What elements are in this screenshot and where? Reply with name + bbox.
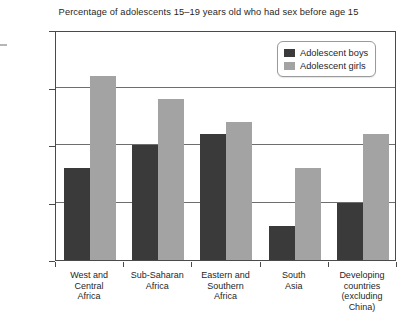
legend-label: Adolescent girls [300, 61, 366, 71]
bar-boys [132, 145, 158, 260]
x-axis-category-label-line: Africa [191, 291, 259, 302]
bar-boys [337, 203, 363, 261]
legend-item: Adolescent boys [284, 46, 368, 59]
x-axis-category-label-line: Africa [123, 281, 191, 292]
x-axis-category-label: SouthAsia [260, 270, 328, 291]
bar-girls [363, 134, 389, 261]
x-axis-category-label-line: (excluding [328, 291, 396, 302]
x-axis-category-label-line: China) [328, 302, 396, 313]
bar-boys [269, 226, 295, 261]
x-axis-tick-mark [260, 262, 261, 267]
x-axis-category-label-line: Sub-Saharan [123, 270, 191, 281]
x-axis-category-label-line: West and [55, 270, 123, 281]
x-axis-tick-mark [123, 262, 124, 267]
x-axis-tick-mark [328, 262, 329, 267]
x-axis-category-label-line: Africa [55, 291, 123, 302]
bar-girls [90, 76, 116, 260]
bar-girls [226, 122, 252, 260]
x-axis-category-label-line: Asia [260, 281, 328, 292]
x-axis-tick-mark [191, 262, 192, 267]
x-axis-category-label: West andCentralAfrica [55, 270, 123, 302]
bar-group [192, 32, 260, 260]
bar-girls [295, 168, 321, 260]
x-axis-category-label-line: Eastern and [191, 270, 259, 281]
legend-label: Adolescent boys [300, 48, 368, 58]
bar-boys [200, 134, 226, 261]
legend-item: Adolescent girls [284, 59, 368, 72]
x-axis-category-label: Developingcountries(excludingChina) [328, 270, 396, 312]
legend-swatch-icon [284, 62, 295, 70]
chart-legend: Adolescent boysAdolescent girls [277, 41, 376, 77]
x-axis-category-label-line: Southern [191, 281, 259, 292]
bar-group [124, 32, 192, 260]
bar-girls [158, 99, 184, 260]
x-axis-category-label-line: Developing [328, 270, 396, 281]
legend-swatch-icon [284, 49, 295, 57]
x-axis-tick-mark [396, 262, 397, 267]
x-axis-category-label: Eastern andSouthernAfrica [191, 270, 259, 302]
x-axis-tick-mark [55, 262, 56, 267]
bar-boys [64, 168, 90, 260]
bar-chart-figure: Percentage of adolescents 15–19 years ol… [0, 0, 417, 326]
bar-group [56, 32, 124, 260]
x-axis-category-label: Sub-SaharanAfrica [123, 270, 191, 291]
x-axis-category-label-line: South [260, 270, 328, 281]
x-axis-category-label-line: Central [55, 281, 123, 292]
x-axis-category-label-line: countries [328, 281, 396, 292]
